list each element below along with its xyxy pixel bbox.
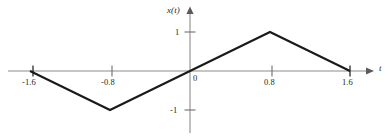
plot-canvas: [0, 0, 392, 140]
origin-label: 0: [193, 74, 197, 83]
x-axis-label: t: [379, 64, 382, 73]
x-tick-label-neg16: -1.6: [22, 78, 36, 87]
y-tick-label-neg1: -1: [170, 106, 177, 115]
x-tick-label-pos08: 0.8: [264, 78, 275, 87]
waveform-figure: x(t) t 0 1 -1 -1.6 -0.8 0.8 1.6: [0, 0, 392, 140]
y-tick-label-pos1: 1: [175, 28, 179, 37]
y-axis-arrowhead: [186, 7, 193, 15]
x-tick-label-neg08: -0.8: [101, 78, 115, 87]
x-axis-arrowhead: [366, 67, 374, 74]
x-tick-label-pos16: 1.6: [342, 78, 353, 87]
y-axis-label: x(t): [167, 6, 180, 15]
